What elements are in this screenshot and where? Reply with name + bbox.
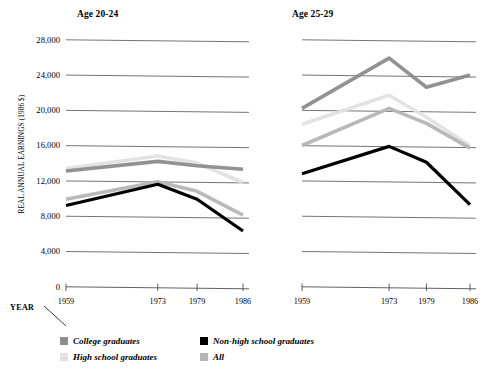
y-axis-tick-label: 24,000 xyxy=(16,70,60,80)
gridline xyxy=(302,181,476,183)
gridline xyxy=(66,146,249,148)
y-axis-tick-label: 12,000 xyxy=(16,176,60,186)
legend-item: All xyxy=(200,352,224,362)
series-line xyxy=(302,95,470,145)
series-line xyxy=(302,58,470,108)
y-axis-tick-label: 0 xyxy=(16,282,60,292)
y-axis-tick-label: 20,000 xyxy=(16,105,60,115)
x-axis-tick-label: 1979 xyxy=(418,297,434,306)
panel-title-left: Age 20-24 xyxy=(77,9,118,19)
y-axis-tick-label: 16,000 xyxy=(16,140,60,150)
legend-label: Non-high school graduates xyxy=(213,336,314,346)
x-axis-tick-label: 1959 xyxy=(58,297,74,306)
gridline xyxy=(302,75,476,77)
x-axis-tick-label: 1986 xyxy=(235,297,251,306)
chart-figure: Age 20-24 Age 25-29 REAL ANNUAL EARNINGS… xyxy=(0,0,486,372)
legend-swatch-icon xyxy=(60,337,68,345)
legend: College graduatesHigh school graduatesNo… xyxy=(60,336,460,370)
legend-label: High school graduates xyxy=(73,352,157,362)
y-axis-tick-label: 28,000 xyxy=(16,35,60,45)
legend-item: Non-high school graduates xyxy=(200,336,314,346)
x-axis-tick-label: 1973 xyxy=(381,297,397,306)
y-axis-tick-labels: 04,0008,00012,00016,00020,00024,00028,00… xyxy=(14,0,60,372)
gridline xyxy=(302,110,476,112)
x-axis-tick-label: 1959 xyxy=(294,297,310,306)
legend-label: All xyxy=(213,352,224,362)
gridline xyxy=(66,75,249,77)
legend-swatch-icon xyxy=(200,337,208,345)
gridline xyxy=(66,110,249,112)
series-line xyxy=(302,146,470,204)
legend-swatch-icon xyxy=(200,353,208,361)
y-axis-tick-label: 8,000 xyxy=(16,211,60,221)
gridline xyxy=(66,40,249,42)
gridline xyxy=(302,252,476,254)
x-axis-tick-label: 1986 xyxy=(462,297,478,306)
plot-area xyxy=(0,0,486,372)
y-axis-tick-label: 4,000 xyxy=(16,246,60,256)
x-axis-tick-label: 1973 xyxy=(150,297,166,306)
x-axis-title: YEAR xyxy=(10,303,34,312)
gridline xyxy=(66,252,249,254)
legend-swatch-icon xyxy=(60,353,68,361)
legend-item: College graduates xyxy=(60,336,140,346)
legend-item: High school graduates xyxy=(60,352,157,362)
x-axis-tick-label: 1979 xyxy=(189,297,205,306)
gridline xyxy=(302,40,476,42)
panel-title-right: Age 25-29 xyxy=(292,9,333,19)
series-line xyxy=(66,184,243,231)
gridline xyxy=(302,216,476,218)
legend-label: College graduates xyxy=(73,336,140,346)
